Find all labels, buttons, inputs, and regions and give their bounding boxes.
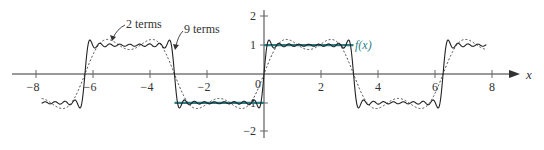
- nine-terms-label: 9 terms: [184, 22, 220, 36]
- x-axis-label: x: [525, 67, 532, 82]
- x-tick-labels: −8 −6 −4 −2 2 4 6 8 0: [27, 77, 495, 94]
- y-tick-label: 2: [250, 9, 256, 23]
- two-terms-leader: [113, 25, 125, 38]
- y-tick-label: −2: [243, 124, 256, 138]
- x-tick-label: −8: [27, 80, 40, 94]
- x-tick-label: −2: [198, 80, 211, 94]
- x-tick-label: −4: [141, 80, 154, 94]
- two-terms-label: 2 terms: [126, 17, 162, 31]
- axes: [12, 10, 512, 138]
- x-tick-label: 2: [318, 80, 324, 94]
- nine-terms-leader: [176, 31, 183, 46]
- fourier-series-chart: x −8 −6 −4 −2 2 4 6 8 0: [0, 0, 544, 150]
- x-tick-label: 6: [432, 80, 438, 94]
- y-tick-label: 1: [250, 38, 256, 52]
- x-tick-label: −6: [84, 80, 97, 94]
- x-tick-label: 4: [375, 80, 381, 94]
- nine-terms-arrow-icon: [173, 44, 179, 50]
- x-tick-label: 8: [489, 80, 495, 94]
- x-axis-arrow-icon: [509, 70, 520, 78]
- fx-label: f(x): [355, 38, 372, 52]
